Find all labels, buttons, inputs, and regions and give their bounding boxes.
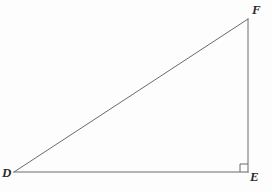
segment-FD [14,19,248,172]
vertex-label-e: E [250,170,259,183]
vertex-label-f: F [252,3,261,16]
vertex-label-d: D [2,166,11,179]
triangle-drawing [0,0,272,192]
right-angle-marker-E [240,164,248,172]
geometry-figure-canvas: D E F [0,0,272,192]
